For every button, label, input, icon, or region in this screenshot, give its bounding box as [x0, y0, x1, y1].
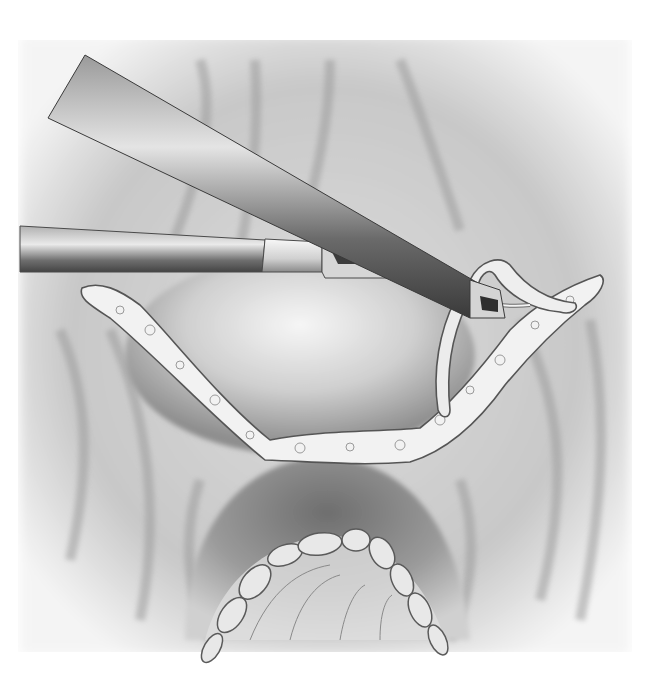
illustration-svg [0, 0, 657, 690]
surgical-illustration [0, 0, 657, 690]
